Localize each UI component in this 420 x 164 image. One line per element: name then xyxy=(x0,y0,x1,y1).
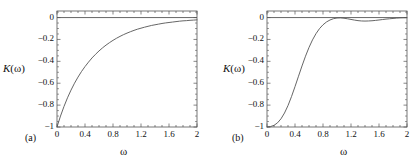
panel-a-y-tick-label: −1 xyxy=(29,121,54,131)
panel-a-x-tick-label: 1.2 xyxy=(131,129,151,139)
panel-a-y-tick-label: 0 xyxy=(29,12,54,22)
panel-tag-a: (a) xyxy=(25,132,36,143)
panel-a-data-curve-0 xyxy=(57,20,197,127)
panel-a-x-tick-label: 2 xyxy=(187,129,207,139)
panel-tag-b: (b) xyxy=(232,132,244,143)
panel-b-data-curve-0 xyxy=(267,18,407,127)
panel-b-y-tick-label: −1 xyxy=(239,121,264,131)
panel-b-x-tick-label: 1.6 xyxy=(369,129,389,139)
panel-a-y-tick-label: −0.2 xyxy=(29,33,54,43)
y-axis-label-argument-a: (ω) xyxy=(10,62,25,74)
panel-a-x-tick-label: 0.8 xyxy=(103,129,123,139)
y-axis-label-a: K(ω) xyxy=(3,62,25,74)
panel-b-x-tick-label: 0.8 xyxy=(313,129,333,139)
panel-b-y-tick-label: −0.6 xyxy=(239,77,264,87)
panel-a-x-tick-label: 1.6 xyxy=(159,129,179,139)
panel-b-y-tick-label: −0.8 xyxy=(239,99,264,109)
panel-a-plot-frame xyxy=(57,11,197,127)
panel-a-y-tick-label: −0.6 xyxy=(29,77,54,87)
panel-b-y-tick-label: 0 xyxy=(239,12,264,22)
panel-b-y-tick-label: −0.4 xyxy=(239,55,264,65)
panel-b-x-tick-label: 2 xyxy=(397,129,417,139)
x-axis-label-b: ω xyxy=(340,145,347,157)
subplot-panel-b: K(ω) ω (b) 00.40.81.21.620−0.2−0.4−0.6−0… xyxy=(210,0,420,164)
panel-a-y-tick-label: −0.4 xyxy=(29,55,54,65)
panel-a-y-tick-label: −0.8 xyxy=(29,99,54,109)
panel-b-x-tick-label: 0.4 xyxy=(285,129,305,139)
panel-b-plot-frame xyxy=(267,11,407,127)
panel-a-x-tick-label: 0.4 xyxy=(75,129,95,139)
panel-b-y-tick-label: −0.2 xyxy=(239,33,264,43)
panel-b-x-tick-label: 1.2 xyxy=(341,129,361,139)
figure-container: K(ω) ω (a) 00.40.81.21.620−0.2−0.4−0.6−0… xyxy=(0,0,420,164)
subplot-panel-a: K(ω) ω (a) 00.40.81.21.620−0.2−0.4−0.6−0… xyxy=(0,0,210,164)
x-axis-label-a: ω xyxy=(120,145,127,157)
